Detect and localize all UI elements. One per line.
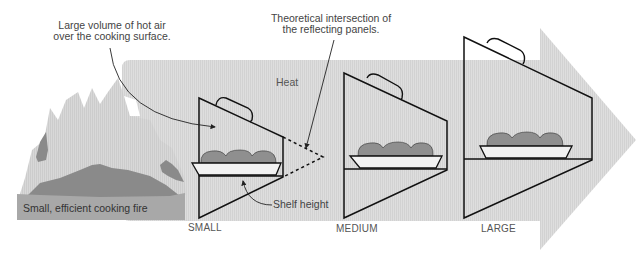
shelf-height-label: Shelf height [273,199,328,210]
hot-air-callout: Large volume of hot air over the cooking… [22,20,202,42]
bread-loaf-icon [201,150,276,163]
intersection-callout: Theoretical intersection of the reflecti… [256,13,406,35]
fire-caption: Small, efficient cooking fire [23,203,148,214]
solar-oven-diagram: Large volume of hot air over the cooking… [0,0,644,257]
heat-label: Heat [276,77,298,88]
bread-loaf-icon [358,142,433,156]
bread-loaf-icon [487,132,563,146]
size-label-small: SMALL [188,222,222,233]
hot-air-callout-line2: over the cooking surface. [22,31,202,42]
intersection-callout-line2: the reflecting panels. [256,24,406,35]
size-label-large: LARGE [481,223,516,234]
size-label-medium: MEDIUM [336,223,378,234]
